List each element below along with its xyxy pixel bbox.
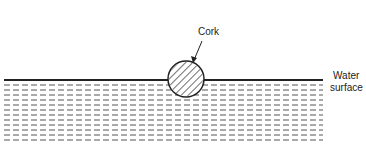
cork-arrow bbox=[194, 41, 202, 60]
water-body bbox=[4, 85, 323, 140]
water-surface-label-line1: Water bbox=[333, 70, 359, 81]
cork-label: Cork bbox=[198, 26, 219, 37]
cork-water-diagram bbox=[0, 0, 366, 144]
water-surface-label-line2: surface bbox=[330, 82, 363, 93]
